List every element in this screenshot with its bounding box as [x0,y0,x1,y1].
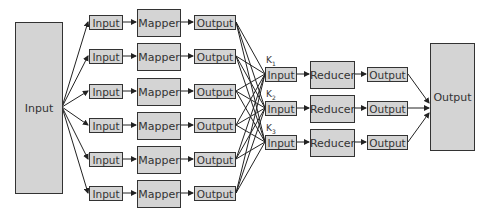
mapper-box: Mapper [137,112,181,140]
mapper-box: Mapper [137,78,181,106]
key-label: K1 [266,55,276,67]
key-label: K3 [266,123,276,135]
mapper-output-box: Output [194,49,236,64]
reducer-output-box: Output [367,67,408,82]
mapper-input-box: Input [89,15,123,30]
source-input-box: Input [15,22,63,194]
mapper-output-box: Output [194,15,236,30]
mapper-input-box: Input [89,118,123,133]
reducer-input-box: Input [265,101,297,116]
mapper-box: Mapper [137,9,181,37]
mapper-input-box: Input [89,49,123,64]
reducer-box: Reducer [310,95,355,123]
mapper-box: Mapper [137,180,181,208]
mapper-output-box: Output [194,84,236,99]
reducer-output-box: Output [367,135,408,150]
connector-layer [0,0,490,215]
mapper-box: Mapper [137,146,181,174]
mapper-output-box: Output [194,118,236,133]
reducer-box: Reducer [310,61,355,89]
mapper-output-box: Output [194,152,236,167]
mapper-input-box: Input [89,152,123,167]
key-label: K2 [266,89,276,101]
sink-output-box: Output [430,43,475,151]
mapper-input-box: Input [89,84,123,99]
reducer-output-box: Output [367,101,408,116]
reducer-input-box: Input [265,135,297,150]
reducer-input-box: Input [265,67,297,82]
mapper-output-box: Output [194,186,236,201]
mapper-input-box: Input [89,186,123,201]
mapper-box: Mapper [137,43,181,71]
reducer-box: Reducer [310,129,355,157]
